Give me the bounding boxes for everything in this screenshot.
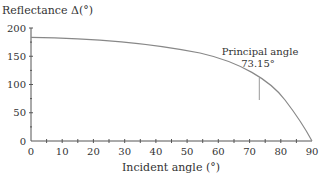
y-axis-label: Reflectance Δ(°) [2, 4, 93, 17]
svg-text:70: 70 [243, 146, 256, 157]
svg-text:150: 150 [7, 51, 26, 62]
svg-text:30: 30 [118, 146, 131, 157]
annotation-value: 73.15° [241, 58, 275, 69]
svg-text:90: 90 [306, 146, 319, 157]
y-tick-labels: 0 50 100 150 200 [7, 23, 26, 147]
svg-text:100: 100 [7, 79, 26, 90]
x-tick-labels: 0 10 20 30 40 50 60 70 80 90 [28, 146, 319, 157]
x-axis-label: Incident angle (°) [122, 161, 220, 174]
svg-text:50: 50 [181, 146, 194, 157]
svg-text:20: 20 [87, 146, 100, 157]
svg-text:200: 200 [7, 23, 26, 34]
svg-text:80: 80 [274, 146, 287, 157]
svg-text:40: 40 [150, 146, 163, 157]
svg-text:0: 0 [28, 146, 34, 157]
svg-text:50: 50 [13, 107, 26, 118]
annotation-title: Principal angle [222, 46, 299, 57]
svg-text:60: 60 [212, 146, 225, 157]
svg-text:10: 10 [56, 146, 69, 157]
chart: Reflectance Δ(°) 0 50 100 150 200 [0, 0, 327, 182]
svg-text:0: 0 [20, 136, 26, 147]
